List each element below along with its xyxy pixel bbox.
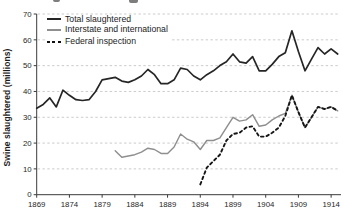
legend-item-interstate: Interstate and international [47, 25, 171, 35]
legend-label-total: Total slaughtered [65, 15, 131, 25]
svg-text:70: 70 [23, 10, 32, 19]
x-tick-labels: 1869187418791884188918941899190419091914 [28, 200, 340, 209]
legend-label-interstate: Interstate and international [65, 25, 168, 35]
svg-text:1894: 1894 [192, 200, 210, 209]
interstate-line-sample-icon [47, 29, 61, 31]
legend-item-total: Total slaughtered [47, 15, 171, 25]
federal-dashed-line-sample-icon [47, 41, 61, 43]
svg-text:0: 0 [27, 190, 32, 199]
svg-text:1879: 1879 [93, 200, 110, 209]
svg-text:1874: 1874 [61, 200, 79, 209]
series-line-interstate [115, 95, 338, 157]
svg-text:1899: 1899 [224, 200, 241, 209]
svg-text:50: 50 [23, 61, 32, 70]
svg-text:30: 30 [23, 113, 32, 122]
svg-text:40: 40 [23, 87, 32, 96]
total-line-sample-icon [47, 18, 61, 20]
svg-text:1909: 1909 [290, 200, 307, 209]
legend: Total slaughtered Interstate and interna… [47, 15, 171, 48]
svg-text:1884: 1884 [126, 200, 144, 209]
chart-figure: Swine slaughtered (millions) 01020304050… [0, 0, 343, 215]
svg-text:1889: 1889 [159, 200, 176, 209]
legend-label-federal: Federal inspection [65, 37, 136, 47]
svg-text:10: 10 [23, 165, 32, 174]
legend-item-federal: Federal inspection [47, 37, 171, 47]
y-tick-labels: 010203040506070 [23, 10, 32, 200]
svg-text:20: 20 [23, 139, 32, 148]
svg-text:1904: 1904 [257, 200, 275, 209]
svg-text:1914: 1914 [322, 200, 340, 209]
svg-text:1869: 1869 [28, 200, 45, 209]
svg-text:60: 60 [23, 36, 32, 45]
